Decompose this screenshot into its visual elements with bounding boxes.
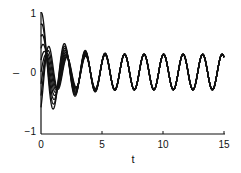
x-tick-label-10: 10 bbox=[157, 139, 169, 150]
data-curves bbox=[41, 13, 224, 109]
curve-line bbox=[41, 35, 224, 100]
y-tick-label-1: 1 bbox=[30, 8, 36, 19]
x-axis-label: t bbox=[131, 153, 134, 165]
x-tick-label-5: 5 bbox=[99, 139, 105, 150]
x-tick-label-15: 15 bbox=[218, 139, 230, 150]
chart-plot: 0 5 10 15 1 0 −1 t – bbox=[0, 0, 241, 173]
y-tick-label-0: 0 bbox=[30, 67, 36, 78]
x-tick-label-0: 0 bbox=[38, 139, 44, 150]
curve-line bbox=[41, 46, 224, 107]
y-axis-label: – bbox=[13, 66, 20, 78]
y-tick-label-neg1: −1 bbox=[25, 126, 37, 137]
